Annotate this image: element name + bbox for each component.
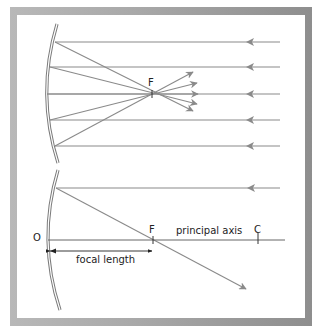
reflected-rays: [47, 42, 198, 146]
focal-point-label-top: F: [148, 77, 154, 88]
focal-point-label: F: [149, 224, 155, 235]
focal-length-label: focal length: [76, 254, 135, 265]
reflected-ray: [56, 188, 246, 289]
principal-axis-label: principal axis: [176, 225, 242, 236]
center-of-curvature-label: C: [254, 224, 261, 235]
focal-length-left-arrow-icon: [50, 249, 56, 254]
top-panel: F: [47, 24, 280, 163]
origin-label: O: [33, 232, 41, 243]
bottom-panel: O F C principal axis focal length: [33, 170, 285, 310]
mirror-diagram: F O F C principal axis focal length: [0, 0, 313, 329]
